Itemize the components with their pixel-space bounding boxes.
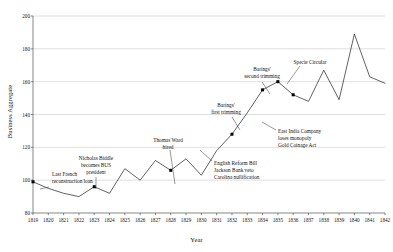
x-tick-label: 1837	[303, 217, 313, 223]
x-tick-label: 1820	[43, 217, 53, 223]
annotation-english-reform-bill: English Reform BillJackson Bank vetoCaro…	[214, 160, 259, 180]
annotation-line: hired	[153, 144, 183, 151]
annotation-line: Carolina nullification	[214, 174, 259, 181]
annotation-nicholas-biddle: Nicholas Biddlebecomes BUSpresident	[79, 155, 113, 175]
tick-marks	[31, 16, 385, 215]
business-aggregate-line-chart	[0, 0, 393, 252]
annotation-line: Thomas Ward	[153, 137, 183, 144]
x-tick-label: 1829	[181, 217, 191, 223]
x-tick-label: 1819	[28, 217, 38, 223]
x-tick-label: 1838	[319, 217, 329, 223]
annotation-line: second trimming	[244, 73, 280, 80]
chart-figure: Business Aggregate Year 8010012014016018…	[0, 0, 393, 252]
annotation-line: Nicholas Biddle	[79, 155, 113, 162]
x-tick-label: 1831	[211, 217, 221, 223]
annotation-line: Specie Circular	[294, 59, 327, 66]
annotation-line: reconstruction loan	[52, 178, 93, 185]
x-tick-label: 1840	[349, 217, 359, 223]
x-tick-label: 1825	[120, 217, 130, 223]
annotation-line: East India Company	[278, 128, 321, 135]
y-tick-label: 180	[8, 46, 30, 52]
x-tick-label: 1835	[273, 217, 283, 223]
x-tick-label: 1823	[89, 217, 99, 223]
annotation-line: first trimming	[211, 109, 241, 116]
annotation-line: English Reform Bill	[214, 160, 259, 167]
annotation-line: Gold Coinage Act	[278, 142, 321, 149]
x-tick-label: 1826	[135, 217, 145, 223]
x-tick-label: 1833	[242, 217, 252, 223]
annotation-line: loses monopoly	[278, 135, 321, 142]
annotation-specie-circular: Specie Circular	[294, 59, 327, 66]
x-tick-label: 1821	[58, 217, 68, 223]
annotation-thomas-ward-hired: Thomas Wardhired	[153, 137, 183, 151]
annotation-line: president	[79, 169, 113, 176]
x-tick-label: 1839	[334, 217, 344, 223]
annotation-line: Barings'	[211, 102, 241, 109]
y-tick-label: 100	[8, 177, 30, 183]
annotation-line: Jackson Bank veto	[214, 167, 259, 174]
x-tick-label: 1842	[380, 217, 390, 223]
y-tick-label: 140	[8, 112, 30, 118]
x-tick-label: 1822	[74, 217, 84, 223]
annotation-barings-first-trimming: Barings'first trimming	[211, 102, 241, 116]
x-tick-label: 1824	[104, 217, 114, 223]
annotation-barings-second-trimming: Barings'second trimming	[244, 66, 280, 80]
x-axis-title: Year	[0, 236, 393, 243]
x-tick-label: 1841	[365, 217, 375, 223]
y-tick-label: 80	[8, 210, 30, 216]
annotation-line: Barings'	[244, 66, 280, 73]
x-tick-label: 1828	[166, 217, 176, 223]
x-tick-label: 1834	[257, 217, 267, 223]
annotation-line: becomes BUS	[79, 162, 113, 169]
annotation-east-india-company: East India Companyloses monopolyGold Coi…	[278, 128, 321, 148]
y-tick-label: 120	[8, 144, 30, 150]
x-tick-label: 1827	[150, 217, 160, 223]
y-tick-label: 200	[8, 13, 30, 19]
x-tick-label: 1830	[196, 217, 206, 223]
x-tick-label: 1832	[227, 217, 237, 223]
y-tick-label: 160	[8, 79, 30, 85]
x-tick-label: 1836	[288, 217, 298, 223]
